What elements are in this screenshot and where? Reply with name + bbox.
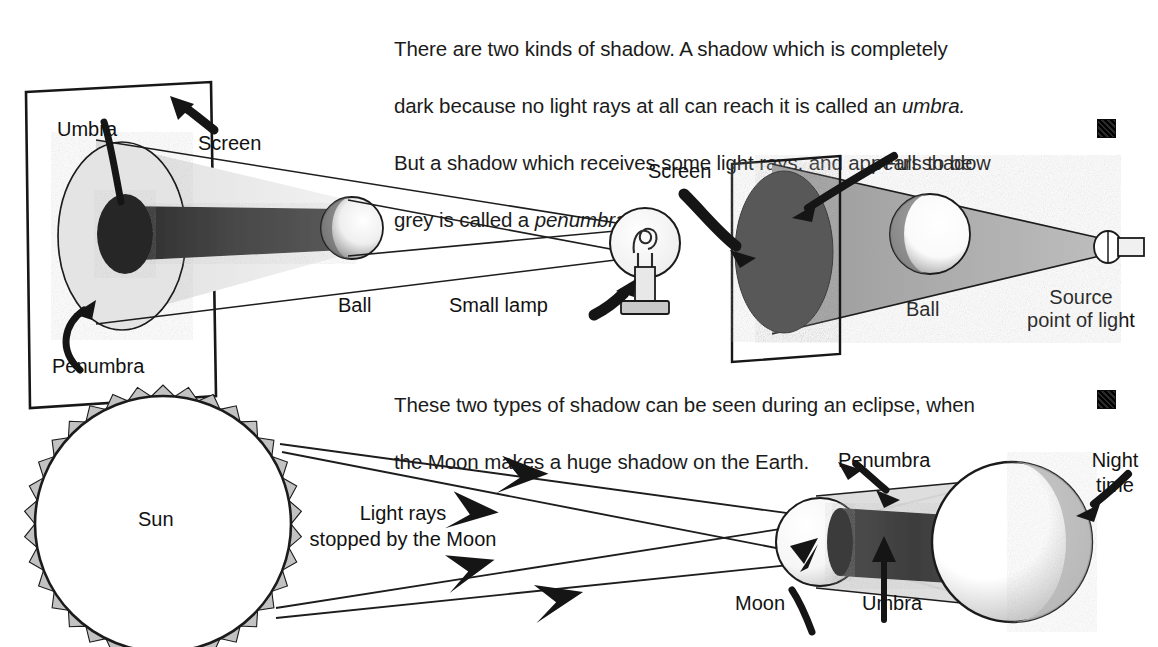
label-moon: Moon [735, 592, 785, 615]
paragraph-intro-line2: dark because no light rays at all can re… [394, 94, 965, 117]
source-point-of-light [1094, 231, 1144, 263]
lamp-stem [635, 267, 655, 301]
marker-square-2 [1097, 390, 1116, 409]
label-umbra-eclipse: Umbra [862, 592, 922, 615]
filament-icon [634, 229, 657, 267]
label-screen-left: Screen [198, 132, 261, 155]
label-umbra-left: Umbra [57, 118, 117, 141]
ball-left [321, 197, 383, 259]
moon-leader [792, 590, 812, 632]
umbra-region-left [97, 194, 153, 274]
moon [776, 498, 864, 586]
label-screen-right: Screen [648, 160, 711, 183]
label-penumbra-left: Penumbra [52, 355, 144, 378]
paragraph-eclipse: These two types of shadow can be seen du… [394, 362, 1094, 476]
penumbra-region-left [58, 142, 186, 330]
label-penumbra-eclipse: Penumbra [838, 449, 930, 472]
label-sun: Sun [138, 508, 174, 531]
screen-arrow-left [186, 108, 214, 130]
paragraph-intro: There are two kinds of shadow. A shadow … [394, 6, 1094, 234]
umbra-region-eclipse [840, 508, 965, 584]
label-night-time: Night time [1072, 448, 1158, 498]
paragraph-eclipse-line1: These two types of shadow can be seen du… [394, 393, 975, 416]
marker-square-1 [1097, 119, 1116, 138]
label-source-point: Source point of light [1016, 286, 1146, 332]
label-small-lamp: Small lamp [449, 294, 548, 317]
label-ball-right: Ball [906, 298, 939, 321]
paragraph-eclipse-line2: the Moon makes a huge shadow on the Eart… [394, 450, 809, 473]
lamp-base [621, 301, 669, 314]
paragraph-intro-line1: There are two kinds of shadow. A shadow … [394, 37, 948, 60]
paragraph-intro-line4: grey is called a penumbra. [394, 208, 632, 231]
earth [932, 462, 1092, 622]
label-ball-left: Ball [338, 294, 371, 317]
lamp-arrow [594, 293, 624, 315]
label-light-rays: Light rays stopped by the Moon [288, 500, 518, 552]
label-full-shadow: Full shadow [884, 152, 991, 175]
